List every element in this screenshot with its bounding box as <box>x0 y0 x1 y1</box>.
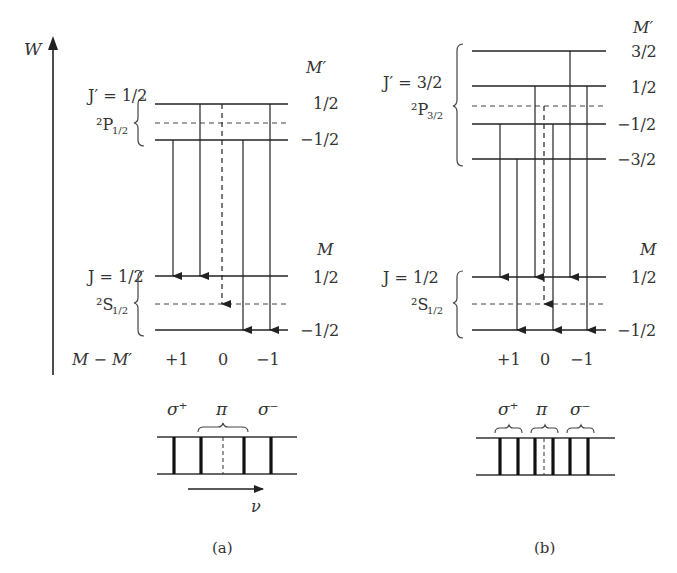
upper-level-label-b-2: −1/2 <box>617 115 656 134</box>
delta-value-a-0: +1 <box>165 350 189 369</box>
lower-level-label-a-1: −1/2 <box>300 321 339 340</box>
delta-value-a-2: −1 <box>256 350 280 369</box>
svg-text:²P: ²P <box>96 115 113 134</box>
upper-term-b: ²P 3/2 <box>411 100 443 121</box>
svg-text:1/2: 1/2 <box>112 125 128 136</box>
upper-level-label-a-0: 1/2 <box>313 94 339 113</box>
delta-value-b-2: −1 <box>570 350 594 369</box>
pi-brace-a <box>198 423 248 432</box>
lower-m-header-a: M <box>316 240 334 259</box>
delta-m-label: M − M′ <box>71 350 132 369</box>
lower-m-header-b: M <box>639 240 657 259</box>
svg-text:3/2: 3/2 <box>427 110 443 121</box>
transitions-b <box>500 51 587 330</box>
zeeman-diagram: W J′ = 1/2 ²P 1/2 M′ 1/2 −1/2 J = 1/2 ²S… <box>0 0 677 573</box>
lower-j-label-a: J = 1/2 <box>86 267 144 286</box>
spectrum-b: σ⁺ π σ⁻ <box>476 399 615 475</box>
upper-term-a: ²P 1/2 <box>96 115 128 136</box>
svg-text:²S: ²S <box>96 295 113 314</box>
svg-text:1/2: 1/2 <box>112 305 128 316</box>
svg-text:1/2: 1/2 <box>427 305 443 316</box>
upper-m-header-a: M′ <box>305 58 326 77</box>
panel-b: J′ = 3/2 ²P 3/2 M′ 3/2 1/2 −1/2 −3/2 J =… <box>381 18 657 557</box>
upper-level-label-a-1: −1/2 <box>300 130 339 149</box>
lower-term-a: ²S 1/2 <box>96 295 128 316</box>
lower-j-label-b: J = 1/2 <box>381 268 439 287</box>
pi-label-a: π <box>215 399 228 419</box>
lower-level-label-b-0: 1/2 <box>631 268 657 287</box>
sigma-minus-label-b: σ⁻ <box>570 399 591 419</box>
spectrum-a: σ⁺ π σ⁻ ν <box>157 399 297 516</box>
lower-level-label-a-0: 1/2 <box>313 268 339 287</box>
sigma-minus-label-a: σ⁻ <box>258 399 279 419</box>
lower-term-b: ²S 1/2 <box>411 295 443 316</box>
caption-a: (a) <box>212 539 233 557</box>
upper-j-label-b: J′ = 3/2 <box>381 73 442 92</box>
upper-brace-b <box>453 44 463 166</box>
sigma-plus-label-b: σ⁺ <box>498 399 519 419</box>
lower-level-label-b-1: −1/2 <box>617 321 656 340</box>
delta-value-b-0: +1 <box>497 350 521 369</box>
lower-brace-b <box>453 271 463 338</box>
energy-axis: W <box>24 36 58 375</box>
frequency-label: ν <box>251 497 261 516</box>
sigma-plus-label-a: σ⁺ <box>167 399 188 419</box>
axis-label: W <box>24 39 43 59</box>
panel-a: J′ = 1/2 ²P 1/2 M′ 1/2 −1/2 J = 1/2 ²S 1… <box>71 58 339 557</box>
svg-text:²P: ²P <box>411 100 428 119</box>
upper-level-label-b-1: 1/2 <box>631 78 657 97</box>
transitions-a <box>173 104 270 330</box>
upper-level-label-b-0: 3/2 <box>631 42 657 61</box>
svg-text:²S: ²S <box>411 295 428 314</box>
upper-brace-a <box>134 98 144 146</box>
upper-m-header-b: M′ <box>632 18 653 37</box>
caption-b: (b) <box>534 539 555 557</box>
delta-value-b-1: 0 <box>540 350 550 369</box>
pi-label-b: π <box>535 399 548 419</box>
delta-value-a-1: 0 <box>218 350 228 369</box>
upper-level-label-b-3: −3/2 <box>617 150 656 169</box>
axis-arrow-icon <box>48 36 58 50</box>
